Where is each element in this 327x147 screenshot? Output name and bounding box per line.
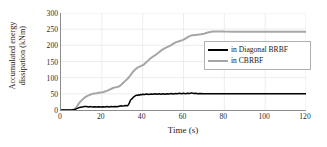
legend-label: in Diagonal BRBF xyxy=(231,45,288,54)
x-axis-tick-label: 100 xyxy=(251,112,277,121)
y-axis-tick-label: 200 xyxy=(36,41,58,50)
y-axis-title-line1: Accumulated energy xyxy=(8,22,18,90)
x-axis-title: Time (s) xyxy=(60,125,306,135)
y-axis-tick-label: 150 xyxy=(36,57,58,66)
x-axis-tick-label: 40 xyxy=(129,112,155,121)
y-axis-title-line2: dissipation (kNm) xyxy=(18,22,28,90)
x-axis-tick-label: 120 xyxy=(292,112,318,121)
legend-item: in CBRBF xyxy=(208,55,307,66)
y-axis-tick-label: 50 xyxy=(36,89,58,98)
x-axis-tick-label: 0 xyxy=(47,112,73,121)
legend-item: in Diagonal BRBF xyxy=(208,44,307,55)
y-axis-title: Accumulated energy dissipation (kNm) xyxy=(0,0,36,112)
x-axis-tick-label: 20 xyxy=(88,112,114,121)
legend-line-swatch xyxy=(208,49,228,51)
x-axis-tick-label: 60 xyxy=(170,112,196,121)
chart-legend: in Diagonal BRBFin CBRBF xyxy=(204,41,311,70)
y-axis-tick-label: 300 xyxy=(36,9,58,18)
x-axis-tick-label: 80 xyxy=(210,112,236,121)
y-axis-tick-label: 100 xyxy=(36,73,58,82)
y-axis-tick-label: 250 xyxy=(36,25,58,34)
x-axis-ticks: 020406080100120 xyxy=(0,112,327,124)
legend-line-swatch xyxy=(208,60,228,62)
energy-dissipation-chart: Accumulated energy dissipation (kNm) 050… xyxy=(0,0,327,147)
legend-label: in CBRBF xyxy=(231,56,263,65)
y-axis-ticks: 050100150200250300 xyxy=(34,0,58,147)
